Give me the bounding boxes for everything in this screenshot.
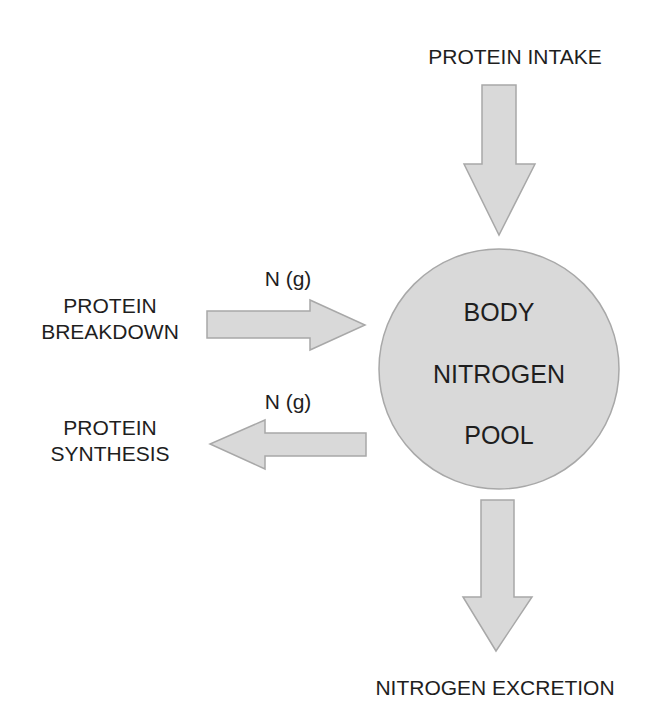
protein-intake-label: PROTEIN INTAKE — [390, 44, 640, 70]
protein-synthesis-line-2: SYNTHESIS — [20, 441, 200, 467]
nitrogen-excretion-label: NITROGEN EXCRETION — [330, 675, 660, 701]
breakdown-arrow — [207, 300, 365, 350]
protein-breakdown-label: PROTEIN BREAKDOWN — [20, 293, 200, 345]
breakdown-flow-label: N (g) — [248, 266, 328, 292]
protein-synthesis-label: PROTEIN SYNTHESIS — [20, 415, 200, 467]
intake-arrow — [464, 85, 535, 235]
diagram-canvas — [0, 0, 668, 716]
protein-breakdown-line-2: BREAKDOWN — [20, 319, 200, 345]
pool-line-body: BODY — [378, 297, 620, 327]
pool-line-pool: POOL — [378, 420, 620, 450]
excretion-arrow — [463, 500, 532, 651]
synthesis-arrow — [210, 420, 366, 469]
protein-breakdown-line-1: PROTEIN — [20, 293, 200, 319]
protein-synthesis-line-1: PROTEIN — [20, 415, 200, 441]
pool-line-nitrogen: NITROGEN — [378, 359, 620, 389]
synthesis-flow-label: N (g) — [248, 389, 328, 415]
